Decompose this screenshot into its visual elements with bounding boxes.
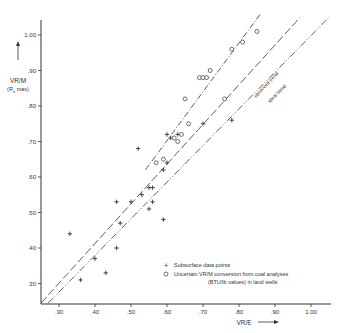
x-tick-label: .90 (271, 309, 280, 315)
legend-label-line2: (BTU/lb values) in land wells (208, 279, 278, 285)
plus-data-point (165, 161, 169, 165)
x-label-text: VR/E (236, 319, 252, 326)
plus-data-point (136, 146, 140, 150)
legend-label: Subsurface data points (174, 262, 231, 268)
circle-data-point (172, 136, 176, 140)
circle-data-point (176, 140, 180, 144)
y-tick-label: .50 (28, 210, 37, 216)
circle-data-point (255, 29, 259, 33)
circle-data-point (205, 76, 209, 80)
circle-data-point (154, 161, 158, 165)
y-axis-label: VR/M (Ro max) (7, 41, 29, 94)
y-tick-label: .80 (28, 103, 37, 109)
ideal-trend-line (48, 17, 329, 303)
circle-data-point (223, 97, 227, 101)
observed-trend-line (41, 17, 300, 303)
x-tick-label: .80 (235, 309, 244, 315)
x-tick-label: 1.00 (305, 309, 317, 315)
y-tick-label: .70 (28, 139, 37, 145)
x-tick-label: .40 (91, 309, 100, 315)
plus-data-point (129, 200, 133, 204)
y-tick-label: .90 (28, 68, 37, 74)
circle-data-point (179, 132, 183, 136)
y-tick-label: .60 (28, 174, 37, 180)
y-label-sub: (Ro max) (7, 86, 29, 94)
legend-item-uncertain: Uncertain VR/M conversion from coal anal… (164, 271, 289, 285)
x-ticks: .30.40.50.60.70.80.901.00 (55, 304, 318, 315)
circle-marker-icon (164, 272, 168, 276)
legend-label: Uncertain VR/M conversion from coal anal… (174, 271, 289, 277)
y-tick-label: .30 (28, 281, 37, 287)
plus-data-point (118, 221, 122, 225)
y-tick-label: 1.00 (24, 32, 36, 38)
circle-data-point (187, 122, 191, 126)
chart-canvas: .30.40.50.60.70.80.901.00 1.00.90.80.70.… (0, 0, 342, 333)
x-tick-label: .70 (199, 309, 208, 315)
y-label-text: VR/M (10, 77, 26, 84)
plus-marker-icon: + (164, 262, 168, 269)
circle-data-point (208, 69, 212, 73)
plus-data-point (165, 132, 169, 136)
circle-data-point (230, 47, 234, 51)
legend-item-subsurface: + Subsurface data points (164, 262, 231, 269)
y-ticks: 1.00.90.80.70.60.50.40.30 (24, 32, 41, 287)
plus-data-point (68, 232, 72, 236)
ideal-trend-label: ideal trend (266, 83, 287, 104)
x-tick-label: .50 (127, 309, 136, 315)
fit-line (145, 14, 260, 170)
plus-data-point (114, 200, 118, 204)
x-tick-label: .60 (163, 309, 172, 315)
up-arrow-head-icon (16, 41, 20, 46)
trend-lines (41, 14, 329, 303)
plus-data-point (104, 271, 108, 275)
plus-data-point (114, 246, 118, 250)
plus-data-point (230, 118, 234, 122)
circle-data-point (183, 97, 187, 101)
plus-data-point (150, 185, 154, 189)
plus-data-point (161, 217, 165, 221)
vr-comparison-chart: .30.40.50.60.70.80.901.00 1.00.90.80.70.… (0, 0, 342, 333)
x-tick-label: .30 (55, 309, 64, 315)
data-points (68, 29, 259, 282)
circle-data-point (161, 157, 165, 161)
plus-data-point (161, 168, 165, 172)
y-tick-label: .40 (28, 245, 37, 251)
right-arrow-head-icon (274, 320, 279, 324)
plus-data-point (78, 278, 82, 282)
plus-data-point (150, 200, 154, 204)
plus-data-point (147, 207, 151, 211)
legend: + Subsurface data points Uncertain VR/M … (164, 262, 289, 285)
x-axis-label: VR/E (236, 319, 279, 326)
circle-data-point (241, 40, 245, 44)
